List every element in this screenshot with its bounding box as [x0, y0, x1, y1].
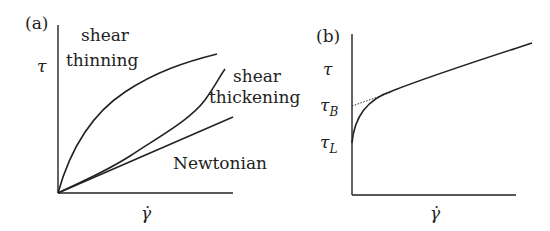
panel-a: (a) τ γ̇ shear thinning shear thickening…: [25, 13, 300, 223]
flow-curve: [352, 43, 532, 143]
tau-l-label: τL: [320, 132, 337, 156]
shear-thickening-label-2: thickening: [209, 87, 300, 107]
newtonian-label: Newtonian: [173, 153, 267, 173]
panel-a-label: (a): [25, 13, 48, 33]
shear-thickening-label-1: shear: [233, 66, 282, 86]
panel-a-x-label: γ̇: [141, 203, 152, 223]
panel-b-y-label: τ: [323, 59, 333, 79]
panel-b: (b) τ γ̇ τB τL: [316, 26, 532, 223]
shear-thinning-label-1: shear: [81, 25, 130, 45]
panel-a-y-label: τ: [37, 56, 47, 76]
rheology-diagram: (a) τ γ̇ shear thinning shear thickening…: [0, 0, 550, 231]
panel-b-label: (b): [316, 26, 340, 46]
panel-b-x-label: γ̇: [430, 203, 441, 223]
tau-b-label: τB: [320, 95, 338, 119]
shear-thinning-label-2: thinning: [66, 50, 139, 70]
